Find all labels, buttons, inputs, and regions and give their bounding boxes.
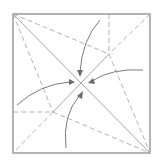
arrow-from-left — [17, 79, 75, 105]
arrow-from-bottom — [65, 91, 83, 148]
arrowhead-left-icon — [88, 78, 95, 84]
crease-top-left-to-lower — [13, 14, 53, 112]
arrow-from-right — [88, 70, 143, 84]
crease-anti-diagonal-lower — [13, 112, 53, 153]
origami-diagram — [0, 0, 158, 165]
arrowhead-down-icon — [77, 70, 83, 77]
arrowhead-right-icon — [69, 79, 75, 85]
crease-anti-diagonal-upper — [109, 14, 150, 54]
